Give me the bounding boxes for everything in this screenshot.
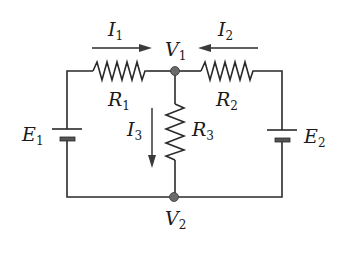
battery-e1 [52, 129, 82, 141]
label-r2: R2 [215, 88, 238, 113]
label-e1: E1 [21, 123, 44, 148]
resistor-r1 [93, 62, 148, 80]
circuit-diagram: I1 I2 V1 R1 R2 I3 R3 E1 E2 V2 [0, 0, 351, 253]
arrow-i3-icon [148, 108, 156, 168]
arrow-i2-icon [198, 44, 258, 52]
label-e2: E2 [303, 125, 326, 150]
wire-bottom-right [175, 140, 282, 197]
label-r1: R1 [107, 88, 130, 113]
label-i2: I2 [217, 18, 233, 43]
label-i3: I3 [126, 118, 142, 143]
label-i1: I1 [107, 18, 123, 43]
label-v2: V2 [165, 207, 186, 232]
node-v2 [170, 193, 179, 202]
node-v1 [171, 67, 180, 76]
label-v1: V1 [165, 38, 186, 63]
wires [67, 71, 282, 197]
wire-top-left [67, 71, 93, 129]
arrow-i1-icon [92, 44, 152, 52]
resistor-r2 [201, 62, 256, 80]
resistor-r3 [166, 104, 184, 160]
label-r3: R3 [191, 118, 214, 143]
wire-top-right [256, 71, 282, 130]
wire-bottom-left [67, 139, 175, 197]
battery-e2 [267, 130, 297, 142]
